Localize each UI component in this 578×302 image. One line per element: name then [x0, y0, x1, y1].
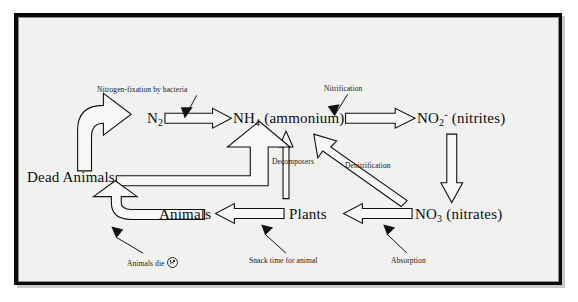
nh4-subscript: 4 — [255, 117, 260, 128]
leader-animals-die — [116, 237, 143, 253]
no3-subscript: 3 — [437, 213, 442, 224]
node-nh4: NH4 (ammonium) — [233, 111, 345, 126]
label-denitrification: Denitrification — [345, 162, 391, 170]
node-no2: NO2- (nitrites) — [417, 111, 505, 126]
pointer-animals-die — [111, 226, 123, 238]
no2-charge: - — [444, 109, 448, 120]
nitrogen-cycle-screenshot: N2 NH4 (ammonium) NO2- (nitrites) NO3 (n… — [0, 0, 578, 302]
leader-absorption — [387, 234, 407, 253]
arrow-no3-to-nh4-denitrification — [314, 134, 407, 206]
arrow-dead-animals-to-n2 — [78, 93, 132, 170]
label-snack-time: Snack time for animal — [249, 257, 318, 265]
node-n2: N2 — [147, 111, 163, 126]
node-animals: Animals — [159, 207, 211, 222]
sad-face-icon — [167, 257, 178, 268]
node-plants: Plants — [289, 207, 327, 222]
leader-snack-time — [265, 234, 286, 253]
node-dead-animals: Dead Animals — [27, 170, 115, 185]
arrow-nh4-to-no2 — [346, 108, 415, 128]
label-decomposers: Decomposers — [272, 158, 314, 166]
pointer-snack-time — [261, 224, 273, 235]
label-nitrogen-fixation: Nitrogen-fixation by bacteria — [97, 86, 187, 94]
arrow-plants-to-animals — [216, 204, 284, 224]
arrow-n2-to-nh4 — [165, 108, 231, 128]
diagram-arrows-layer — [19, 18, 558, 281]
label-absorption: Absorption — [391, 257, 426, 265]
n2-subscript: 2 — [158, 117, 163, 128]
pointer-absorption — [383, 224, 395, 235]
arrow-no2-to-no3 — [441, 134, 463, 202]
label-animals-die: Animals die — [127, 255, 178, 268]
node-no3: NO3 (nitrates) — [415, 207, 502, 222]
animals-die-text: Animals die — [127, 259, 165, 268]
diagram-canvas: N2 NH4 (ammonium) NO2- (nitrites) NO3 (n… — [18, 17, 559, 282]
arrow-dead-animals-to-nh4-decomposers — [116, 121, 290, 186]
label-nitrification: Nitrification — [324, 85, 362, 93]
